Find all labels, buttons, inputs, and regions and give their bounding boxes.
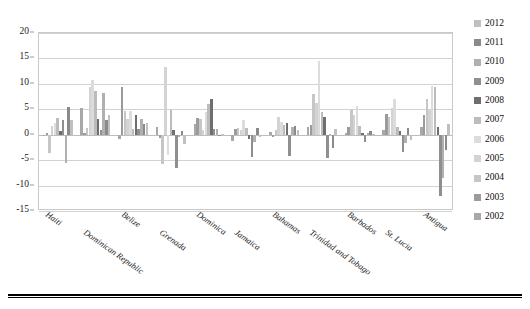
legend-swatch-icon <box>474 20 481 27</box>
bar <box>175 135 177 169</box>
bar <box>364 135 366 143</box>
bar <box>178 135 180 138</box>
bar <box>156 127 158 135</box>
x-axis-label: Barbados <box>346 210 378 236</box>
bar <box>286 123 288 135</box>
legend-label: 2002 <box>485 212 504 222</box>
legend-item[interactable]: 2002 <box>474 207 530 226</box>
legend-item[interactable]: 2008 <box>474 91 530 110</box>
bar-group <box>39 33 77 209</box>
legend-label: 2009 <box>485 77 504 87</box>
legend-item[interactable]: 2012 <box>474 14 530 33</box>
legend-item[interactable]: 2004 <box>474 168 530 187</box>
y-axis-tick-label: 10 <box>20 78 30 88</box>
y-axis-tick-mark <box>30 32 34 33</box>
x-axis-label: Antigua <box>422 210 449 233</box>
legend-item[interactable]: 2003 <box>474 188 530 207</box>
bar <box>447 124 449 135</box>
legend-label: 2007 <box>485 115 504 125</box>
y-axis-tick-mark <box>30 82 34 83</box>
legend-swatch-icon <box>474 97 481 104</box>
legend-item[interactable]: 2009 <box>474 72 530 91</box>
bar <box>164 67 166 135</box>
bar <box>253 135 255 143</box>
bar <box>118 135 120 140</box>
x-axis-label: Haiti <box>44 210 63 227</box>
y-axis-tick-mark <box>30 210 34 211</box>
x-axis-label: Bahamas <box>271 210 302 235</box>
y-axis-tick-label: -15 <box>16 205 29 215</box>
legend-label: 2005 <box>485 154 504 164</box>
bar <box>404 135 406 144</box>
x-axis-labels: HaitiDominican RepublicBelizeGrenadaDomi… <box>38 210 453 285</box>
y-axis-tick-mark <box>30 108 34 109</box>
legend: 2012201120102009200820072006200520042003… <box>474 14 530 226</box>
bar <box>410 135 412 141</box>
bar-group <box>114 33 152 209</box>
bar <box>43 135 45 137</box>
x-axis-label: Belize <box>120 210 142 229</box>
bar <box>407 128 409 135</box>
plot-area <box>38 32 453 210</box>
bar <box>256 128 258 135</box>
legend-label: 2010 <box>485 57 504 67</box>
bar-group <box>341 33 379 209</box>
legend-item[interactable]: 2011 <box>474 33 530 52</box>
legend-swatch-icon <box>474 194 481 201</box>
bar <box>80 108 82 134</box>
bar-group <box>303 33 341 209</box>
y-axis: 20151050-5-10-15 <box>0 32 34 210</box>
bar <box>231 135 233 141</box>
bar <box>288 135 290 156</box>
legend-label: 2012 <box>485 19 504 29</box>
legend-swatch-icon <box>474 136 481 143</box>
y-axis-tick-label: -10 <box>16 180 29 190</box>
bar-group <box>265 33 303 209</box>
bar-group <box>379 33 417 209</box>
legend-swatch-icon <box>474 175 481 182</box>
bar-group <box>190 33 228 209</box>
bar-group <box>228 33 266 209</box>
bar <box>259 135 261 138</box>
bar <box>108 115 110 135</box>
y-axis-tick-label: 20 <box>20 27 30 37</box>
y-axis-tick-label: 0 <box>24 129 29 139</box>
bar <box>272 135 274 138</box>
bar <box>323 117 325 134</box>
bar <box>183 135 185 144</box>
legend-swatch-icon <box>474 213 481 220</box>
x-axis-label: Dominican Republic <box>82 228 145 276</box>
y-axis-tick-mark <box>30 133 34 134</box>
bar <box>326 135 328 158</box>
y-axis-tick-mark <box>30 57 34 58</box>
x-axis-label: Jamaica <box>233 228 262 252</box>
legend-item[interactable]: 2005 <box>474 149 530 168</box>
legend-label: 2006 <box>485 135 504 145</box>
bar <box>62 120 64 135</box>
x-axis-label: St. Lucia <box>384 228 414 253</box>
bar <box>48 135 50 153</box>
bar <box>70 120 72 135</box>
legend-swatch-icon <box>474 78 481 85</box>
bottom-rule-secondary <box>8 297 522 298</box>
bar <box>167 135 169 155</box>
legend-swatch-icon <box>474 59 481 66</box>
legend-item[interactable]: 2010 <box>474 53 530 72</box>
y-axis-tick-mark <box>30 159 34 160</box>
bar-group <box>416 33 454 209</box>
bar-groups <box>39 33 452 209</box>
bar <box>65 135 67 163</box>
chart-root: 20151050-5-10-15 HaitiDominican Republic… <box>0 0 530 309</box>
legend-item[interactable]: 2006 <box>474 130 530 149</box>
legend-swatch-icon <box>474 155 481 162</box>
bar <box>332 135 334 148</box>
legend-item[interactable]: 2007 <box>474 110 530 129</box>
legend-label: 2003 <box>485 193 504 203</box>
x-axis-label: Dominica <box>195 210 228 236</box>
legend-swatch-icon <box>474 39 481 46</box>
y-axis-tick-label: -5 <box>21 154 29 164</box>
y-axis-tick-label: 15 <box>20 53 30 63</box>
bar-group <box>152 33 190 209</box>
x-axis-label: Trinidad and Tobago <box>308 228 372 276</box>
bar <box>245 128 247 135</box>
